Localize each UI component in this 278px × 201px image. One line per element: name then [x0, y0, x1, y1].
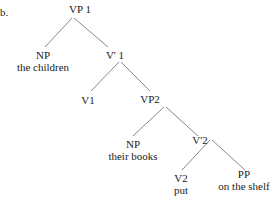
edge-vbar1-v1: [91, 62, 119, 91]
edge-vp2-vbar2: [166, 107, 198, 136]
node-label: NP: [108, 138, 157, 150]
node-vbar2: V'2: [192, 134, 207, 146]
node-label: V2: [174, 172, 188, 184]
node-vbar1: V' 1: [106, 49, 124, 61]
node-text: the children: [17, 61, 69, 73]
node-np-object: NP their books: [108, 138, 157, 162]
edge-vp1-np: [45, 18, 72, 47]
edge-vbar1-vp2: [121, 62, 150, 91]
node-pp: PP on the shelf: [218, 168, 269, 192]
node-vp1: VP 1: [69, 3, 91, 15]
node-v1: V1: [81, 94, 94, 106]
node-text: put: [174, 184, 188, 196]
node-label: VP2: [140, 93, 160, 105]
node-text: on the shelf: [218, 180, 269, 192]
node-np-subject: NP the children: [17, 49, 69, 73]
node-v2: V2 put: [174, 172, 188, 196]
node-vp2: VP2: [140, 93, 160, 105]
node-label: VP 1: [69, 3, 91, 15]
edge-vbar2-pp: [212, 140, 245, 170]
node-text: their books: [108, 150, 157, 162]
node-label: V'2: [192, 134, 207, 146]
node-label: PP: [218, 168, 269, 180]
node-label: V1: [81, 94, 94, 106]
node-label: V' 1: [106, 49, 124, 61]
node-label: NP: [17, 49, 69, 61]
edge-vp1-vbar1: [74, 18, 108, 47]
edge-vp2-np2: [133, 107, 164, 136]
